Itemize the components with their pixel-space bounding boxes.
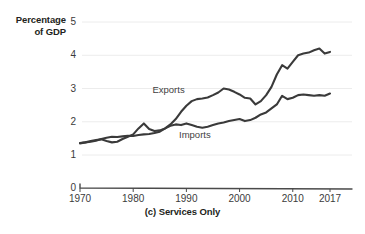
services-only-line-chart: Percentageof GDP (c) Services Only 54321… bbox=[0, 0, 365, 234]
y-axis-tick-label: 4 bbox=[62, 50, 76, 60]
x-axis-tick-label: 1990 bbox=[166, 194, 206, 204]
y-axis-tick-label: 3 bbox=[62, 84, 76, 94]
x-axis-tick-label: 2000 bbox=[220, 194, 260, 204]
series-annotation-exports: Exports bbox=[152, 85, 184, 95]
y-axis-tick-label: 2 bbox=[62, 117, 76, 127]
y-axis-tick-label: 1 bbox=[62, 150, 76, 160]
x-axis-tick-label: 1970 bbox=[60, 194, 100, 204]
y-axis-tick-label: 0 bbox=[62, 183, 76, 193]
axis-line bbox=[80, 184, 352, 189]
x-axis-tick-label: 1980 bbox=[113, 194, 153, 204]
gridlines bbox=[82, 22, 352, 155]
x-axis bbox=[80, 184, 352, 192]
x-axis-tick-label: 2017 bbox=[310, 194, 350, 204]
y-axis-tick-label: 5 bbox=[62, 17, 76, 27]
x-axis-tick-label: 2010 bbox=[273, 194, 313, 204]
chart-caption: (c) Services Only bbox=[0, 206, 365, 217]
series-annotation-imports: Imports bbox=[179, 130, 211, 140]
